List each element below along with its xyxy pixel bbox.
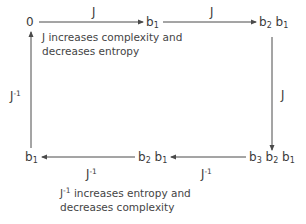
part-sub: 2 <box>273 156 278 165</box>
node-b1-top-base: b <box>146 15 154 29</box>
note-top: J increases complexity and decreases ent… <box>42 30 182 58</box>
node-b2b1-top: b2 b1 <box>259 16 288 32</box>
note-top-line2: decreases entropy <box>42 44 182 58</box>
part-sub: 1 <box>283 21 288 30</box>
edge-label-top-2: J <box>210 6 213 18</box>
edge-label-top-1: J <box>92 6 95 18</box>
part-b: b <box>138 150 146 164</box>
note-bottom-line2: decreases complexity <box>60 200 191 214</box>
part-sub: 2 <box>267 21 272 30</box>
edge-label-right: J <box>281 89 284 101</box>
note-bottom-rest: increases entropy and <box>71 187 191 199</box>
label-sup: -1 <box>89 167 96 176</box>
part-sub: 2 <box>146 156 151 165</box>
part-sub: 1 <box>33 156 38 165</box>
part-sub: 1 <box>162 156 167 165</box>
note-bottom: J-1 increases entropy and decreases comp… <box>60 184 191 214</box>
node-b2b1-bottom: b2 b1 <box>138 151 167 167</box>
part-sub: 1 <box>290 156 295 165</box>
part-b: b <box>259 15 267 29</box>
part-b: b <box>25 150 33 164</box>
label-sup: -1 <box>204 167 211 176</box>
edge-label-left: J-1 <box>10 88 21 102</box>
part-sub: 3 <box>257 156 262 165</box>
edge-label-bottom-2: J-1 <box>201 166 212 180</box>
node-zero: 0 <box>26 16 34 28</box>
part-b: b <box>249 150 257 164</box>
note-bottom-line1: J-1 increases entropy and <box>60 184 191 200</box>
edge-label-bottom-1: J-1 <box>86 166 97 180</box>
node-b1-bottom: b1 <box>25 151 38 167</box>
node-b3b2b1: b3 b2 b1 <box>249 151 295 167</box>
node-b1-top-sub: 1 <box>154 21 159 30</box>
note-top-line1: J increases complexity and <box>42 30 182 44</box>
note-bottom-sup: -1 <box>63 186 70 195</box>
label-sup: -1 <box>13 89 20 98</box>
part-b: b <box>282 150 290 164</box>
